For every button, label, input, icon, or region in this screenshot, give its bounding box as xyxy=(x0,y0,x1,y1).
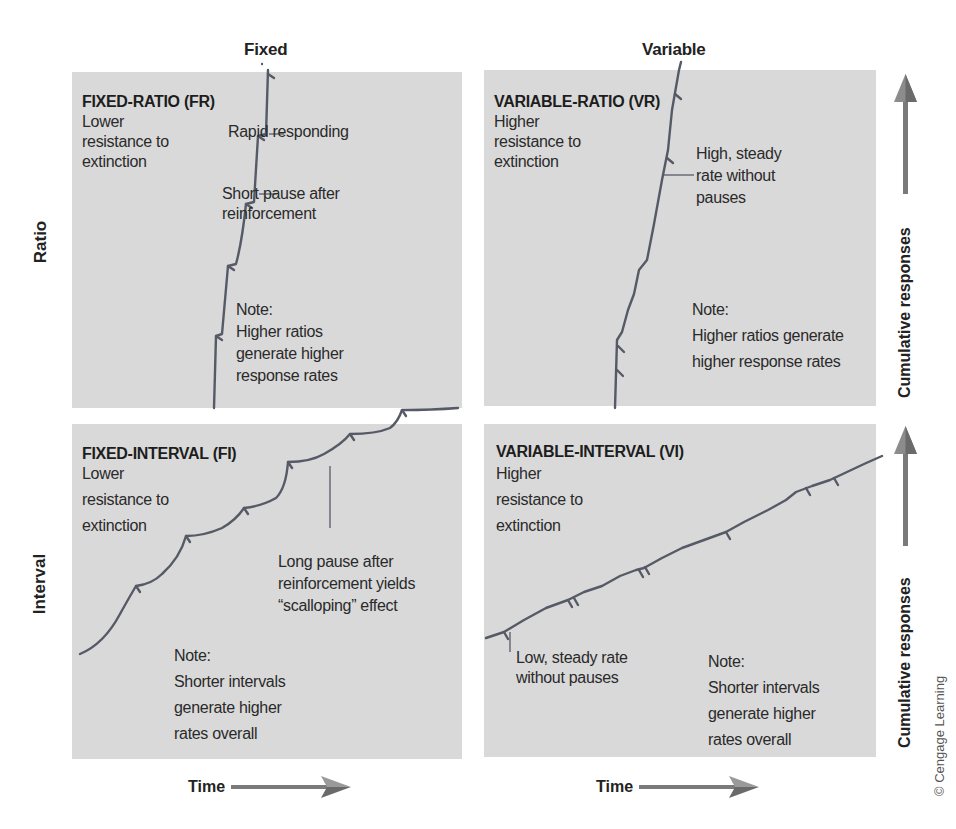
fr-callout-rapid: Rapid responding xyxy=(228,122,349,142)
panel-variable-ratio: VARIABLE-RATIO (VR) Higher resistance to… xyxy=(484,70,876,406)
vi-note-3: generate higher xyxy=(708,704,816,724)
vr-callout-2: rate without xyxy=(696,166,775,186)
fr-note-1: Note: xyxy=(236,300,273,320)
y-axis-top: Cumulative responses xyxy=(886,74,926,404)
vi-title: VARIABLE-INTERVAL (VI) xyxy=(496,442,684,462)
vi-callout-1: Low, steady rate xyxy=(516,648,628,668)
vi-cumulative-curve xyxy=(484,424,876,757)
y-axis-bottom: Cumulative responses xyxy=(886,426,926,756)
row-header-interval: Interval xyxy=(30,554,50,614)
x-axis-label-right: Time xyxy=(596,778,633,796)
fi-title: FIXED-INTERVAL (FI) xyxy=(82,444,236,464)
vi-note-2: Shorter intervals xyxy=(708,678,819,698)
fi-desc-3: extinction xyxy=(82,516,147,536)
fr-note-4: response rates xyxy=(236,366,338,386)
x-axis-left: Time xyxy=(188,776,351,798)
fi-note-3: generate higher xyxy=(174,698,282,718)
fi-callout-2: reinforcement yields xyxy=(278,574,415,594)
right-arrow-icon xyxy=(231,776,351,798)
vi-desc-2: resistance to xyxy=(496,490,583,510)
x-axis-label-left: Time xyxy=(188,778,225,796)
copyright-credit: © Cengage Learning xyxy=(932,676,947,796)
fi-note-1: Note: xyxy=(174,646,211,666)
vr-desc-1: Higher xyxy=(494,112,539,132)
vi-desc-1: Higher xyxy=(496,464,541,484)
vr-note-3: higher response rates xyxy=(692,352,840,372)
panel-fixed-interval: FIXED-INTERVAL (FI) Lower resistance to … xyxy=(72,424,462,759)
right-arrow-icon xyxy=(639,776,759,798)
panel-variable-interval: VARIABLE-INTERVAL (VI) Higher resistance… xyxy=(484,424,876,757)
up-arrow-icon xyxy=(886,426,926,546)
fr-callout-pause-1: Short pause after xyxy=(222,184,340,204)
column-header-variable: Variable xyxy=(642,40,706,60)
y-axis-label-top: Cumulative responses xyxy=(896,227,914,398)
fi-desc-1: Lower xyxy=(82,464,124,484)
vi-note-1: Note: xyxy=(708,652,745,672)
fr-callout-pause-2: reinforcement xyxy=(222,204,316,224)
vr-note-2: Higher ratios generate xyxy=(692,326,844,346)
vr-note-1: Note: xyxy=(692,300,729,320)
fi-note-2: Shorter intervals xyxy=(174,672,285,692)
fr-title: FIXED-RATIO (FR) xyxy=(82,92,215,112)
vr-desc-2: resistance to xyxy=(494,132,581,152)
fr-note-2: Higher ratios xyxy=(236,322,323,342)
fi-callout-1: Long pause after xyxy=(278,552,393,572)
fi-callout-3: “scalloping” effect xyxy=(278,596,397,616)
row-header-ratio: Ratio xyxy=(31,221,51,264)
fr-desc-2: resistance to xyxy=(82,132,169,152)
fi-desc-2: resistance to xyxy=(82,490,169,510)
vr-callout-1: High, steady xyxy=(696,144,781,164)
x-axis-right: Time xyxy=(596,776,759,798)
y-axis-label-bottom: Cumulative responses xyxy=(896,577,914,748)
fr-note-3: generate higher xyxy=(236,344,344,364)
up-arrow-icon xyxy=(886,74,926,194)
fr-desc-1: Lower xyxy=(82,112,124,132)
column-header-fixed: Fixed xyxy=(244,40,287,60)
vr-callout-3: pauses xyxy=(696,188,746,208)
panel-fixed-ratio: FIXED-RATIO (FR) Lower resistance to ext… xyxy=(72,72,462,408)
vi-callout-2: without pauses xyxy=(516,668,619,688)
vi-note-4: rates overall xyxy=(708,730,791,750)
vr-desc-3: extinction xyxy=(494,152,559,172)
fi-note-4: rates overall xyxy=(174,724,257,744)
vr-title: VARIABLE-RATIO (VR) xyxy=(494,92,660,112)
fr-desc-3: extinction xyxy=(82,152,147,172)
vi-desc-3: extinction xyxy=(496,516,561,536)
